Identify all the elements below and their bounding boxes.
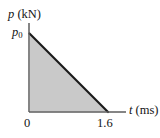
y-peak-value-label: p0 (12, 26, 23, 40)
x-axis-tick-label: 1.6 (97, 117, 113, 130)
x-axis-origin-label: 0 (24, 117, 30, 130)
x-axis-unit: (ms) (136, 103, 159, 117)
y-axis-label: p (kN) (8, 8, 41, 21)
x-axis-label: t (ms) (129, 104, 159, 117)
y-axis-unit: (kN) (17, 7, 41, 21)
triangular-pulse-load-figure: p (kN) p0 t (ms) 0 1.6 (0, 0, 160, 138)
y-peak-subscript: 0 (18, 30, 22, 40)
